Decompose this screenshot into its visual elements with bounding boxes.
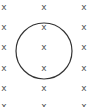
field-into-page-icon: x	[1, 2, 7, 12]
magnetic-field-diagram: xxxxxxxxxxxxxxxxxx	[0, 0, 90, 107]
field-into-page-icon: x	[1, 63, 7, 73]
field-into-page-icon: x	[41, 83, 47, 93]
field-into-page-icon: x	[81, 63, 87, 73]
field-into-page-icon: x	[41, 101, 47, 107]
field-into-page-icon: x	[1, 101, 7, 107]
field-into-page-icon: x	[1, 42, 7, 52]
field-into-page-icon: x	[81, 22, 87, 32]
field-marks: xxxxxxxxxxxxxxxxxx	[1, 2, 87, 107]
field-into-page-icon: x	[41, 63, 47, 73]
field-into-page-icon: x	[1, 22, 7, 32]
field-into-page-icon: x	[81, 83, 87, 93]
field-into-page-icon: x	[41, 2, 47, 12]
field-into-page-icon: x	[41, 42, 47, 52]
field-into-page-icon: x	[1, 83, 7, 93]
field-into-page-icon: x	[81, 101, 87, 107]
field-into-page-icon: x	[81, 42, 87, 52]
field-into-page-icon: x	[81, 2, 87, 12]
